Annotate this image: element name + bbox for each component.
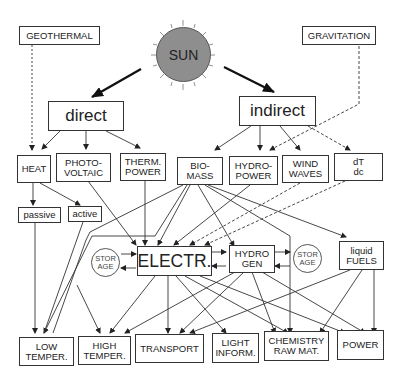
geothermal-node: GEOTHERMAL (19, 26, 100, 45)
transport-node: TRANSPORT (135, 334, 204, 363)
high-temperature-node: HIGHTEMPER. (78, 336, 131, 365)
hydrogen-node: HYDROGEN (229, 245, 275, 273)
active-node: active (68, 206, 102, 222)
liquid-fuels-node: liquidFUELS (339, 241, 384, 270)
photovoltaic-node: PHOTO-VOLTAIC (56, 153, 111, 182)
dt-dc-node: dTdc (334, 153, 383, 181)
chemistry-raw-materials-node: CHEMISTRYRAW MAT. (264, 331, 329, 361)
thermal-power-node: THERM.POWER (120, 153, 166, 181)
biomass-node: BIO-MASS (177, 157, 223, 185)
heat-node: HEAT (17, 155, 51, 183)
light-inform-node: LIGHTINFORM. (212, 333, 259, 363)
electricity-node: ELECTR. (137, 246, 212, 276)
passive-node: passive (18, 207, 61, 223)
sun-label: SUN (169, 47, 199, 63)
power-node: POWER (337, 330, 384, 360)
storage-left-node: STORAGE (91, 248, 120, 277)
gravitation-node: GRAVITATION (302, 26, 376, 45)
indirect-node: indirect (239, 96, 316, 126)
sun-node: SUN (156, 27, 211, 82)
wind-waves-node: WINDWAVES (282, 155, 329, 183)
energy-flow-diagram: SUN GEOTHERMAL GRAVITATION direct indire… (0, 0, 399, 381)
hydropower-node: HYDRO-POWER (229, 156, 278, 185)
direct-node: direct (48, 101, 124, 131)
storage-right-node: STORAGE (293, 244, 322, 273)
low-temperature-node: LOWTEMPER. (19, 337, 74, 366)
